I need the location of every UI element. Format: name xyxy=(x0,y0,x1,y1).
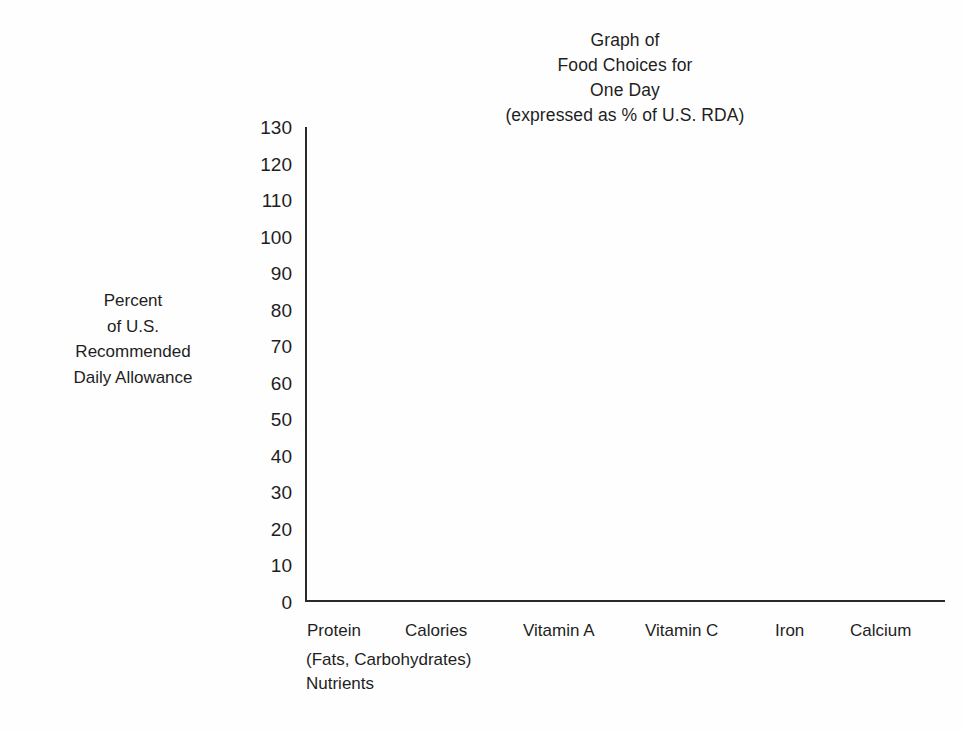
chart-title-line-3: One Day xyxy=(425,78,825,103)
x-tick-label-vitamin-a: Vitamin A xyxy=(523,620,595,641)
x-tick-label-calories: Calories xyxy=(405,620,467,641)
x-tick-label-protein: Protein xyxy=(307,620,361,641)
x-tick-label-calcium: Calcium xyxy=(850,620,911,641)
y-tick-label-10: 10 xyxy=(200,556,292,575)
y-axis-tick-labels: 1301201101009080706050403020100 xyxy=(200,127,292,602)
chart-title-line-2: Food Choices for xyxy=(425,53,825,78)
y-tick-label-60: 60 xyxy=(200,374,292,393)
chart-title: Graph of Food Choices for One Day (expre… xyxy=(425,28,825,128)
x-tick-label-vitamin-c: Vitamin C xyxy=(645,620,718,641)
x-axis-caption-line-1: (Fats, Carbohydrates) xyxy=(306,648,471,672)
y-tick-label-40: 40 xyxy=(200,447,292,466)
y-tick-label-110: 110 xyxy=(200,191,292,210)
y-tick-label-0: 0 xyxy=(200,593,292,612)
y-tick-label-120: 120 xyxy=(200,155,292,174)
x-axis-caption-line-2: Nutrients xyxy=(306,672,471,696)
x-axis-caption: (Fats, Carbohydrates) Nutrients xyxy=(306,648,471,696)
y-tick-label-130: 130 xyxy=(200,118,292,137)
x-axis-tick-labels: ProteinCaloriesVitamin AVitamin CIronCal… xyxy=(305,620,955,646)
chart-title-line-1: Graph of xyxy=(425,28,825,53)
y-tick-label-20: 20 xyxy=(200,520,292,539)
chart-title-line-4: (expressed as % of U.S. RDA) xyxy=(425,103,825,128)
plot-area xyxy=(305,127,945,601)
y-tick-label-50: 50 xyxy=(200,410,292,429)
chart-page: Graph of Food Choices for One Day (expre… xyxy=(0,0,962,731)
y-tick-label-70: 70 xyxy=(200,337,292,356)
y-tick-label-90: 90 xyxy=(200,264,292,283)
y-tick-label-80: 80 xyxy=(200,301,292,320)
y-tick-label-30: 30 xyxy=(200,483,292,502)
x-tick-label-iron: Iron xyxy=(775,620,804,641)
y-tick-label-100: 100 xyxy=(200,228,292,247)
